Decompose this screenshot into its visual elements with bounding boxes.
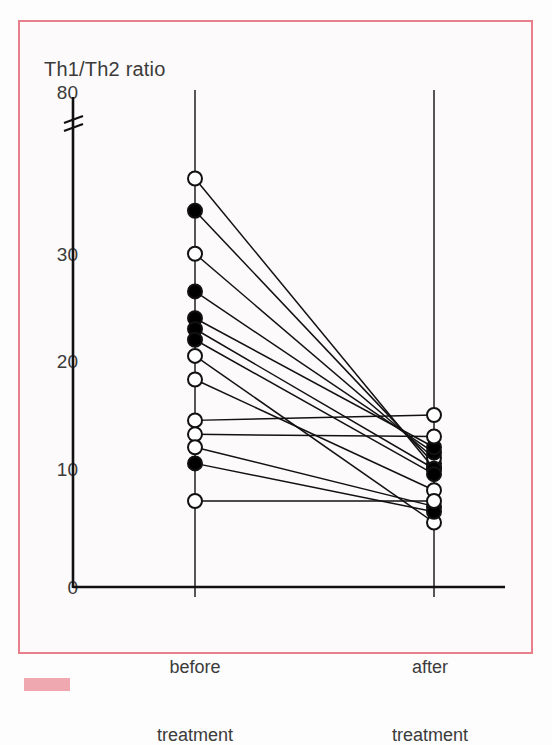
connector-line [195,463,434,511]
x-tick-after-line2: treatment [350,724,510,745]
data-point-before-open [188,247,202,261]
data-point-before-filled [188,456,202,470]
data-point-before-open [188,494,202,508]
connector-line [195,329,434,469]
data-point-before-open [188,373,202,387]
data-point-before-open [188,349,202,363]
data-point-before-filled [188,333,202,347]
connector-line [195,340,434,474]
data-point-after-open [427,408,441,422]
data-point-after-open [427,494,441,508]
data-point-after-open [427,430,441,444]
data-point-before-filled [188,204,202,218]
connector-line [195,447,434,506]
data-point-before-open [188,440,202,454]
data-point-before-filled [188,284,202,298]
data-point-before-open [188,413,202,427]
data-point-before-open [188,172,202,186]
connector-line [195,415,434,420]
paired-connector-lines [195,179,434,523]
data-point-after-filled [427,467,441,481]
x-tick-before-line2: treatment [115,724,275,745]
